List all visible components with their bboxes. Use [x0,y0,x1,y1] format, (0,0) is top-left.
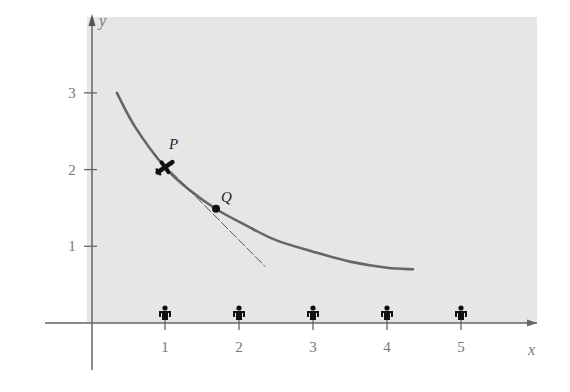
y-tick-label: 3 [68,85,76,101]
x-tick-label: 4 [383,339,391,355]
x-tick-label: 2 [235,339,243,355]
point-q-label: Q [221,189,232,205]
x-tick-label: 5 [457,339,465,355]
x-tick-label: 3 [309,339,317,355]
y-axis-label: y [97,12,107,30]
x-tick-label: 1 [161,339,169,355]
y-tick-label: 1 [68,238,76,254]
y-tick-label: 2 [68,162,76,178]
point-p-label: P [168,136,178,152]
chart: 123 12345 x y PQ [0,0,570,392]
point-q-dot [212,205,220,213]
x-axis-label: x [527,341,535,358]
plot-background [87,17,537,323]
